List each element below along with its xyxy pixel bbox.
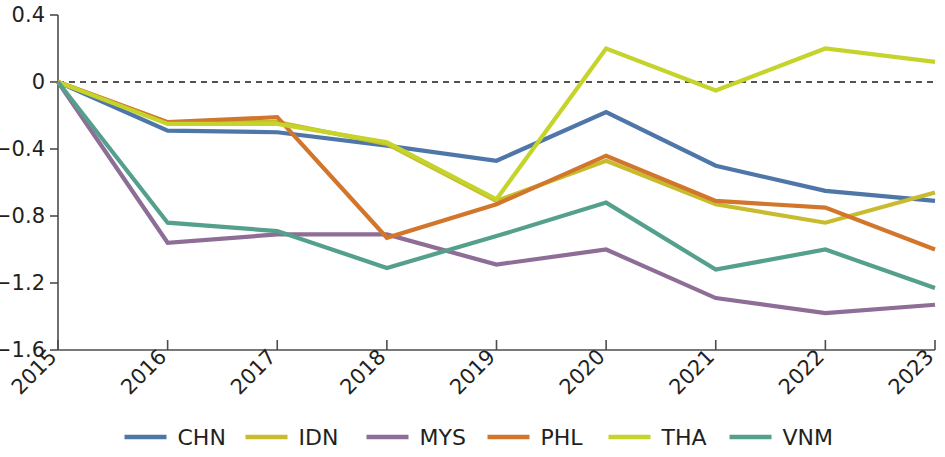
x-axis-tick-label: 2021 bbox=[665, 345, 720, 400]
legend-label-mys[interactable]: MYS bbox=[420, 425, 466, 450]
y-axis-tick-label: 0.4 bbox=[12, 3, 45, 27]
x-axis-tick-label: 2020 bbox=[555, 345, 610, 400]
chart-legend: CHNIDNMYSPHLTHAVNM bbox=[125, 425, 834, 450]
y-axis-tick-label: −0.4 bbox=[0, 137, 45, 161]
legend-label-phl[interactable]: PHL bbox=[541, 425, 584, 450]
series-line-chn bbox=[58, 82, 935, 201]
x-axis-tick-label: 2023 bbox=[884, 345, 939, 400]
x-axis-tick-label: 2017 bbox=[226, 345, 281, 400]
x-axis-tick-label: 2016 bbox=[116, 345, 171, 400]
chart-canvas: 0.40−0.4−0.8−1.2−1.6 2015201620172018201… bbox=[0, 0, 945, 457]
y-axis-tick-label: −0.8 bbox=[0, 204, 45, 228]
series-lines bbox=[58, 49, 935, 314]
legend-label-chn[interactable]: CHN bbox=[178, 425, 226, 450]
y-axis: 0.40−0.4−0.8−1.2−1.6 bbox=[0, 3, 58, 362]
x-axis-tick-label: 2019 bbox=[445, 345, 500, 400]
legend-label-vnm[interactable]: VNM bbox=[783, 425, 834, 450]
legend-label-idn[interactable]: IDN bbox=[299, 425, 339, 450]
x-axis-tick-label: 2022 bbox=[774, 345, 829, 400]
x-axis: 201520162017201820192020202120222023 bbox=[7, 340, 939, 399]
legend-label-tha[interactable]: THA bbox=[661, 425, 707, 450]
x-axis-tick-label: 2018 bbox=[336, 345, 391, 400]
line-chart: 0.40−0.4−0.8−1.2−1.6 2015201620172018201… bbox=[0, 0, 945, 457]
series-line-tha bbox=[58, 49, 935, 200]
y-axis-tick-label: −1.2 bbox=[0, 271, 45, 295]
y-axis-tick-label: 0 bbox=[32, 70, 45, 94]
